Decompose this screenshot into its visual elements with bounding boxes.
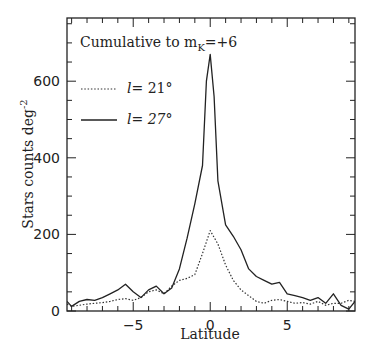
legend-label-l27: l= 27°	[127, 111, 172, 127]
x-axis-title: Latitude	[180, 326, 240, 342]
x-tick-label: 5	[283, 317, 292, 333]
chart: −5050200400600 Cumulative to mK=+6 l= 21…	[0, 0, 367, 356]
plot-series	[67, 54, 355, 309]
y-tick-label: 0	[51, 303, 60, 319]
series-l21-dotted	[67, 231, 355, 307]
series-l27-solid	[67, 54, 355, 309]
y-tick-label: 200	[33, 226, 60, 242]
y-tick-label: 400	[33, 150, 60, 166]
annotation-cumulative: Cumulative to mK=+6	[80, 34, 237, 53]
y-tick-label: 600	[33, 73, 60, 89]
x-tick-label: −5	[123, 317, 144, 333]
legend-label-l21: l= 21°	[127, 80, 172, 96]
y-axis-title: Stars counts deg-2	[18, 99, 36, 228]
legend: l= 21° l= 27°	[81, 80, 172, 127]
